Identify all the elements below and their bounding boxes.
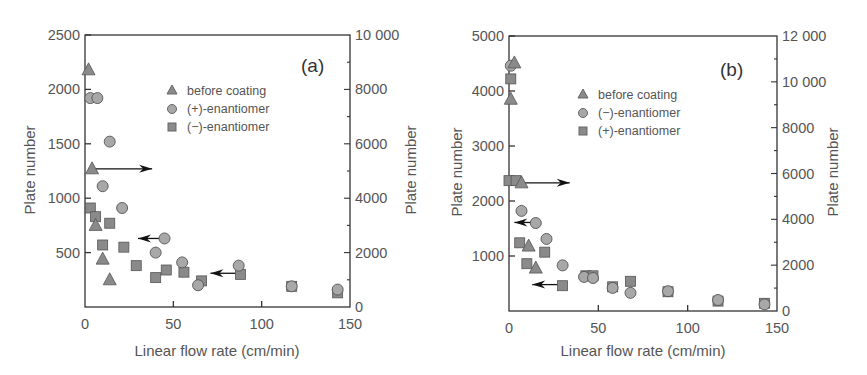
data-point-circle — [97, 181, 108, 192]
data-point-circle — [159, 233, 170, 244]
panel-b-x-axis-title: Linear flow rate (cm/min) — [560, 342, 725, 359]
y-right-tick-label: 8000 — [782, 120, 814, 136]
panel-b-legend-item-2: (−)-enantiomer — [598, 106, 680, 120]
data-point-circle — [663, 286, 674, 297]
y-tick-label: 4000 — [472, 83, 504, 99]
triangle-marker-icon — [167, 85, 177, 94]
x-tick-label: 100 — [250, 316, 274, 332]
panel-a-legend-item-2: (+)-enantiomer — [187, 102, 269, 116]
y-right-tick-label: 4000 — [355, 190, 387, 206]
data-point-triangle — [82, 63, 95, 75]
figure: 0501001505001000150020002500020004000600… — [0, 0, 867, 375]
x-tick-label: 50 — [590, 320, 606, 336]
data-point-circle — [625, 287, 636, 298]
data-point-triangle — [504, 92, 517, 104]
panel-b-legend: before coating (−)-enantiomer (+)-enanti… — [578, 88, 680, 138]
square-marker-icon — [579, 127, 587, 135]
panel-b-legend-item-1: before coating — [598, 88, 677, 102]
x-tick-label: 150 — [765, 320, 789, 336]
y-tick-label: 2500 — [48, 27, 80, 43]
data-point-circle — [286, 281, 297, 292]
y-tick-label: 2000 — [472, 193, 504, 209]
data-point-circle — [557, 260, 568, 271]
data-point-circle — [193, 280, 204, 291]
y-right-tick-label: 10 000 — [355, 27, 399, 43]
panel-a-label: (a) — [301, 55, 324, 76]
y-tick-label: 1500 — [48, 136, 80, 152]
data-point-circle — [233, 260, 244, 271]
data-point-square — [151, 273, 161, 283]
y-right-tick-label: 2000 — [355, 245, 387, 261]
data-point-circle — [117, 202, 128, 213]
panel-b-legend-item-3: (+)-enantiomer — [598, 124, 680, 138]
circle-marker-icon — [579, 109, 588, 118]
data-point-circle — [541, 233, 552, 244]
data-point-square — [179, 267, 189, 277]
data-point-circle — [104, 136, 115, 147]
data-point-square — [540, 247, 550, 257]
data-point-circle — [516, 205, 527, 216]
data-point-square — [558, 281, 568, 291]
data-point-circle — [177, 257, 188, 268]
panel-a-y-axis-title-right: Plate number — [402, 125, 419, 214]
circle-marker-icon — [168, 105, 177, 114]
x-tick-label: 0 — [81, 316, 89, 332]
y-right-tick-label: 0 — [355, 299, 363, 315]
data-point-square — [161, 265, 171, 275]
panel-a-x-axis-title: Linear flow rate (cm/min) — [134, 342, 299, 359]
y-right-tick-label: 12 000 — [782, 28, 826, 44]
panel-b-label: (b) — [720, 59, 743, 80]
panel-b-plot-area: 0501001501000200030004000500002000400060… — [472, 28, 827, 336]
panel-a: 0501001505001000150020002500020004000600… — [21, 27, 419, 359]
data-point-square — [98, 240, 108, 250]
panel-b: 0501001501000200030004000500002000400060… — [448, 28, 841, 359]
y-right-tick-label: 10 000 — [782, 74, 826, 90]
data-point-triangle — [103, 273, 116, 285]
y-right-tick-label: 6000 — [355, 136, 387, 152]
panel-a-legend-item-1: before coating — [187, 84, 266, 98]
x-tick-label: 100 — [676, 320, 700, 336]
data-point-square — [105, 218, 115, 228]
data-point-square — [506, 74, 516, 84]
data-point-triangle — [96, 252, 109, 264]
panel-a-legend-item-3: (−)-enantiomer — [187, 120, 269, 134]
data-point-square — [515, 238, 525, 248]
x-tick-label: 150 — [338, 316, 362, 332]
data-point-circle — [587, 273, 598, 284]
panel-a-y-axis-title-left: Plate number — [21, 125, 38, 214]
y-right-tick-label: 2000 — [782, 257, 814, 273]
data-point-triangle — [86, 162, 99, 174]
y-right-tick-label: 4000 — [782, 211, 814, 227]
data-point-square — [625, 276, 635, 286]
panel-b-y-axis-title-left: Plate number — [448, 127, 465, 216]
y-tick-label: 500 — [56, 245, 80, 261]
data-point-circle — [759, 299, 770, 310]
data-point-circle — [150, 247, 161, 258]
panel-a-legend: before coating (+)-enantiomer (−)-enanti… — [167, 84, 269, 134]
square-marker-icon — [168, 123, 176, 131]
y-right-tick-label: 8000 — [355, 81, 387, 97]
data-point-circle — [607, 282, 618, 293]
data-point-circle — [92, 93, 103, 104]
x-tick-label: 50 — [165, 316, 181, 332]
data-point-circle — [713, 295, 724, 306]
x-tick-label: 0 — [505, 320, 513, 336]
y-tick-label: 2000 — [48, 81, 80, 97]
data-point-square — [522, 259, 532, 269]
data-point-square — [119, 242, 129, 252]
y-tick-label: 1000 — [472, 248, 504, 264]
y-right-tick-label: 6000 — [782, 166, 814, 182]
y-right-tick-label: 0 — [782, 303, 790, 319]
panel-b-y-axis-title-right: Plate number — [824, 127, 841, 216]
y-tick-label: 3000 — [472, 138, 504, 154]
data-point-circle — [530, 218, 541, 229]
panel-a-plot-area: 0501001505001000150020002500020004000600… — [48, 27, 400, 332]
y-tick-label: 5000 — [472, 28, 504, 44]
data-point-circle — [332, 284, 343, 295]
y-tick-label: 1000 — [48, 190, 80, 206]
data-point-square — [131, 261, 141, 271]
triangle-marker-icon — [578, 89, 588, 98]
